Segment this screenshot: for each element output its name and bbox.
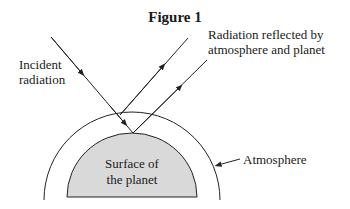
reflected-label-line2: atmosphere and planet <box>208 42 325 57</box>
reflected-label-line1: Radiation reflected by <box>208 27 324 42</box>
reflected-arrow-atmosphere <box>120 66 163 115</box>
incident-arrow-2 <box>110 106 125 124</box>
atmosphere-label: Atmosphere <box>243 152 307 167</box>
radiation-diagram: Figure 1 Incident radiation Radiation re… <box>0 0 350 209</box>
atmosphere-pointer-arrow <box>218 159 240 165</box>
surface-label-line2: the planet <box>107 172 158 187</box>
reflected-arrow-planet <box>133 87 180 133</box>
surface-label-line1: Surface of <box>105 156 159 171</box>
incident-label-line1: Incident <box>19 57 62 72</box>
figure-title: Figure 1 <box>148 9 201 25</box>
incident-label-line2: radiation <box>19 72 66 87</box>
